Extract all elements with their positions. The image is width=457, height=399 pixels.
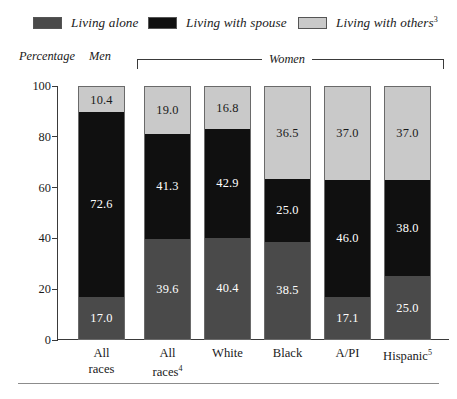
- group-bracket-women: Women: [137, 59, 444, 70]
- legend-label-living-with-others-text: Living with others: [336, 15, 434, 30]
- bar-segment-others[interactable]: 16.8: [204, 86, 251, 129]
- bar-segment-value: 17.1: [336, 312, 358, 324]
- bar-segment-value: 72.6: [90, 198, 112, 210]
- x-axis-label-line1: White: [212, 346, 243, 360]
- bar-segment-value: 38.0: [396, 222, 418, 234]
- x-axis-category-labels: AllracesAllraces4WhiteBlackA/PIHispanic5: [57, 345, 449, 385]
- stacked-bar[interactable]: 37.046.017.1: [324, 86, 371, 340]
- bar-segment-alone[interactable]: 17.0: [78, 297, 125, 340]
- legend-item-living-alone: Living alone: [33, 12, 139, 34]
- bar-segment-value: 46.0: [336, 232, 358, 244]
- bar-segment-alone[interactable]: 39.6: [144, 239, 191, 340]
- x-axis-label-line1: Black: [273, 346, 302, 360]
- x-axis-label-line1: Hispanic5: [383, 349, 432, 363]
- bar-segment-value: 16.8: [216, 102, 238, 114]
- x-axis-label-footnote: 5: [428, 348, 432, 357]
- bar-segment-value: 39.6: [156, 283, 178, 295]
- bar-segment-value: 25.0: [396, 302, 418, 314]
- x-axis-label-line1: A/PI: [336, 346, 360, 360]
- legend-label-living-with-others: Living with others3: [336, 15, 438, 31]
- y-axis-tick-labels: 100806040200: [5, 86, 51, 340]
- x-axis-label-line1: All: [93, 346, 109, 360]
- bar-segment-value: 37.0: [396, 127, 418, 139]
- bar-segment-spouse[interactable]: 41.3: [144, 134, 191, 239]
- y-axis-tick-label: 100: [5, 79, 51, 94]
- bar-segment-value: 17.0: [90, 312, 112, 324]
- bar-segment-value: 42.9: [216, 177, 238, 189]
- bar-segment-others[interactable]: 10.4: [78, 86, 125, 112]
- legend-swatch-living-with-others: [298, 17, 327, 29]
- legend-item-living-with-spouse: Living with spouse: [148, 12, 287, 34]
- bar-segment-value: 19.0: [156, 104, 178, 116]
- plot-area: 100806040200 10.472.617.019.041.339.616.…: [57, 86, 449, 340]
- group-label-men: Men: [89, 49, 111, 64]
- bar-segment-spouse[interactable]: 42.9: [204, 129, 251, 238]
- stacked-bar[interactable]: 16.842.940.4: [204, 86, 251, 340]
- y-axis-tick-label: 0: [5, 333, 51, 348]
- bar-segment-others[interactable]: 36.5: [264, 86, 311, 179]
- x-axis-label-line1: All: [159, 346, 175, 360]
- bar-segment-value: 37.0: [336, 127, 358, 139]
- bar-segment-alone[interactable]: 38.5: [264, 242, 311, 340]
- bracket-tick-left: [137, 59, 138, 69]
- legend-label-living-alone: Living alone: [71, 15, 139, 31]
- bracket-tick-right: [443, 59, 444, 69]
- bar-segment-value: 40.4: [216, 282, 238, 294]
- legend-footnote-marker: 3: [434, 15, 438, 24]
- x-axis-label-footnote: 4: [178, 364, 182, 373]
- bar-segment-alone[interactable]: 17.1: [324, 297, 371, 340]
- group-caption-row: Percentage Men Women: [0, 48, 457, 70]
- bar-segment-spouse[interactable]: 25.0: [264, 179, 311, 243]
- bar-segment-value: 25.0: [276, 204, 298, 216]
- footer-divider: [18, 383, 439, 384]
- bar-segment-others[interactable]: 37.0: [384, 86, 431, 180]
- stacked-bar[interactable]: 36.525.038.5: [264, 86, 311, 340]
- y-axis-tick-label: 20: [5, 282, 51, 297]
- bar-segment-spouse[interactable]: 38.0: [384, 180, 431, 277]
- bar-segment-value: 10.4: [90, 94, 112, 106]
- bar-segment-spouse[interactable]: 72.6: [78, 112, 125, 296]
- stacked-bar[interactable]: 37.038.025.0: [384, 86, 431, 340]
- stacked-bar[interactable]: 10.472.617.0: [78, 86, 125, 340]
- stacked-bar[interactable]: 19.041.339.6: [144, 86, 191, 340]
- bar-segment-spouse[interactable]: 46.0: [324, 180, 371, 297]
- bar-segment-value: 38.5: [276, 284, 298, 296]
- chart-legend: Living alone Living with spouse Living w…: [0, 12, 457, 34]
- x-axis-label: Hispanic5: [368, 345, 448, 364]
- bar-series-container: 10.472.617.019.041.339.616.842.940.436.5…: [57, 86, 449, 340]
- y-axis-tick-label: 80: [5, 129, 51, 144]
- bar-segment-value: 41.3: [156, 180, 178, 192]
- bar-segment-others[interactable]: 19.0: [144, 86, 191, 134]
- legend-item-living-with-others: Living with others3: [298, 12, 438, 34]
- bar-segment-others[interactable]: 37.0: [324, 86, 371, 180]
- y-axis-title: Percentage: [19, 49, 75, 64]
- legend-swatch-living-with-spouse: [148, 17, 177, 29]
- y-axis-tick-label: 40: [5, 231, 51, 246]
- bar-segment-alone[interactable]: 25.0: [384, 276, 431, 340]
- y-axis-tick-label: 60: [5, 180, 51, 195]
- group-label-women: Women: [262, 52, 312, 67]
- legend-label-living-with-spouse: Living with spouse: [186, 15, 287, 31]
- legend-swatch-living-alone: [33, 17, 62, 29]
- bar-segment-alone[interactable]: 40.4: [204, 238, 251, 341]
- x-axis-label-line2: races4: [128, 361, 208, 380]
- bar-segment-value: 36.5: [276, 127, 298, 139]
